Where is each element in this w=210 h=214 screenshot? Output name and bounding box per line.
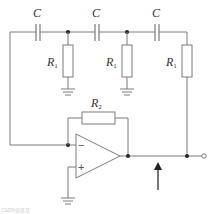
- svg-text:R2: R2: [90, 96, 102, 111]
- noninverting-ground: [61, 167, 76, 204]
- ground-icon: [61, 89, 75, 95]
- resistor-r1-c: R1: [165, 45, 192, 156]
- svg-text:R1: R1: [165, 55, 177, 70]
- capacitor-1-label: C: [33, 6, 42, 20]
- output-terminal: [202, 154, 206, 158]
- noninverting-sign: +: [78, 161, 84, 173]
- up-arrow-icon: [154, 162, 162, 190]
- svg-text:R1: R1: [105, 55, 117, 70]
- capacitor-2: C: [92, 6, 101, 41]
- svg-text:R1: R1: [46, 55, 58, 70]
- output-node: [126, 154, 130, 158]
- capacitor-1: C: [33, 6, 42, 41]
- footer-watermark: CSDN@某某: [1, 207, 30, 214]
- resistor-r1-a: R1: [46, 32, 73, 89]
- feedback-node: [185, 154, 189, 158]
- resistor-r1-b: R1: [105, 32, 132, 89]
- inverting-sign: −: [78, 139, 84, 151]
- ground-icon: [120, 89, 134, 95]
- capacitor-3: C: [152, 6, 161, 41]
- capacitor-2-label: C: [92, 6, 101, 20]
- opamp-icon: − +: [76, 134, 120, 178]
- capacitor-3-label: C: [152, 6, 161, 20]
- circuit-diagram: C C C R1 R1 R1: [0, 0, 210, 214]
